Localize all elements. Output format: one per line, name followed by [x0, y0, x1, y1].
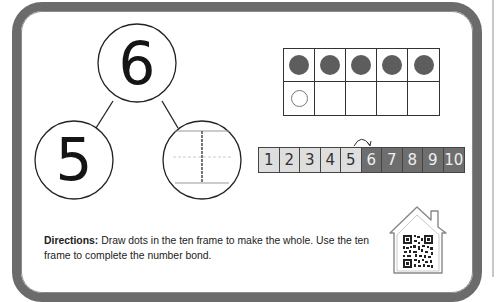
ten-frame — [283, 48, 440, 116]
directions-text: Directions: Draw dots in the ten frame t… — [44, 233, 374, 263]
ten-frame-cell-7[interactable] — [315, 82, 346, 115]
bond-connector-right — [162, 101, 178, 128]
filled-dot-icon — [351, 55, 371, 75]
whole-value: 6 — [108, 35, 166, 93]
filled-dot-icon — [320, 55, 340, 75]
directions-label: Directions: — [44, 235, 98, 246]
ten-frame-cell-3[interactable] — [346, 49, 377, 82]
house-qr-code-icon[interactable] — [388, 203, 450, 277]
strip-number: 9 — [423, 148, 444, 172]
strip-number: 6 — [362, 148, 383, 172]
filled-dot-icon — [382, 55, 402, 75]
strip-number: 3 — [300, 148, 321, 172]
strip-number: 1 — [259, 148, 280, 172]
filled-dot-icon — [289, 55, 309, 75]
ten-frame-cell-9[interactable] — [377, 82, 408, 115]
house-outline-icon — [390, 207, 446, 273]
ten-frame-cell-10[interactable] — [408, 82, 439, 115]
ten-frame-cell-8[interactable] — [346, 82, 377, 115]
strip-number: 10 — [444, 148, 465, 172]
ten-frame-cell-2[interactable] — [315, 49, 346, 82]
empty-dot-outline-icon — [291, 90, 308, 107]
filled-dot-icon — [414, 55, 434, 75]
strip-number: 4 — [321, 148, 342, 172]
strip-number: 8 — [403, 148, 424, 172]
ten-frame-cell-5[interactable] — [408, 49, 439, 82]
strip-number: 7 — [382, 148, 403, 172]
bond-connector-left — [96, 101, 113, 128]
ten-frame-cell-4[interactable] — [377, 49, 408, 82]
ten-frame-cell-6[interactable] — [284, 82, 315, 115]
number-strip: 1 2 3 4 5 6 7 8 9 10 — [258, 147, 465, 173]
part-left-value: 5 — [45, 131, 103, 189]
strip-number: 2 — [280, 148, 301, 172]
ten-frame-cell-1[interactable] — [284, 49, 315, 82]
strip-number: 5 — [341, 148, 362, 172]
